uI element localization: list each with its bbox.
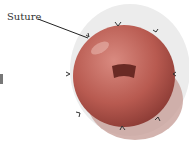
stem-scar xyxy=(112,64,136,78)
suture-leader-line xyxy=(38,19,88,38)
tomato-illustration xyxy=(0,0,189,156)
